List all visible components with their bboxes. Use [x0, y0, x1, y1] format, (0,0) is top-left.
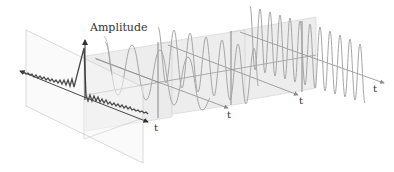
amplitude-label: Amplitude [89, 21, 148, 34]
axis-label-t-component-1: t [227, 109, 231, 120]
fourier-decomposition-diagram: Amplitude t t t t [0, 0, 394, 172]
axis-label-t-front: t [154, 122, 158, 133]
axis-label-t-component-2: t [299, 95, 303, 106]
axis-label-t-component-3: t [373, 83, 377, 94]
